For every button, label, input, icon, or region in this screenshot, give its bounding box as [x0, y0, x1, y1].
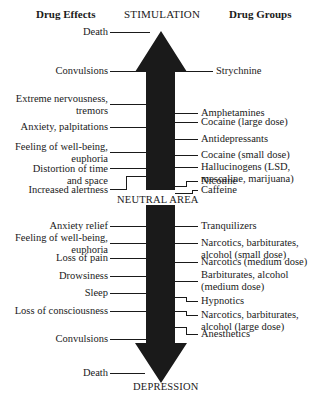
leader-right-anesthetics — [175, 327, 198, 334]
group-barbiturates-alcohol-medium: Barbiturates, alcohol (medium dose) — [201, 269, 324, 292]
group-strychnine: Strychnine — [216, 65, 324, 77]
leader-right-nicotine — [175, 181, 198, 186]
effect-increased-alertness: Increased alertness — [0, 184, 108, 196]
effect-death-top: Death — [0, 26, 108, 38]
group-caffeine: Caffeine — [201, 184, 324, 196]
leader-left-increased-alertness — [110, 176, 146, 189]
leader-right-hypnotics — [175, 297, 198, 301]
neutral-area-label: NEUTRAL AREA — [117, 194, 199, 205]
group-cocaine-large-dose: Cocaine (large dose) — [201, 116, 324, 128]
effect-distortion-of-time-and-space: Distortion of time and space — [0, 163, 108, 186]
group-antidepressants: Antidepressants — [201, 133, 324, 145]
effect-anxiety-palpitations: Anxiety, palpitations — [0, 121, 108, 133]
effect-death-bottom: Death — [0, 367, 108, 379]
drug-effects-continuum-diagram: Drug Effects STIMULATION Drug Groups — [0, 0, 324, 399]
effect-sleep: Sleep — [0, 287, 108, 299]
effect-loss-of-consciousness: Loss of consciousness — [0, 305, 108, 317]
effect-well-being-euphoria-stim: Feeling of well-being, euphoria — [0, 141, 108, 164]
effect-loss-of-pain: Loss of pain — [0, 252, 108, 264]
effect-convulsions-top: Convulsions — [0, 65, 108, 77]
effect-convulsions-bottom: Convulsions — [0, 333, 108, 345]
group-tranquilizers: Tranquilizers — [201, 220, 324, 232]
group-anesthetics: Anesthetics — [201, 328, 324, 340]
leader-right-caffeine — [175, 190, 198, 193]
effect-anxiety-relief: Anxiety relief — [0, 220, 108, 232]
depression-label: DEPRESSION — [133, 381, 199, 392]
group-cocaine-small-dose: Cocaine (small dose) — [201, 149, 324, 161]
group-narcotics-medium-dose: Narcotics (medium dose) — [201, 256, 324, 268]
effect-extreme-nervousness: Extreme nervousness, tremors — [0, 93, 108, 116]
effect-drowsiness: Drowsiness — [0, 270, 108, 282]
group-hypnotics: Hypnotics — [201, 295, 324, 307]
leader-right-narcotics-large — [175, 311, 198, 315]
